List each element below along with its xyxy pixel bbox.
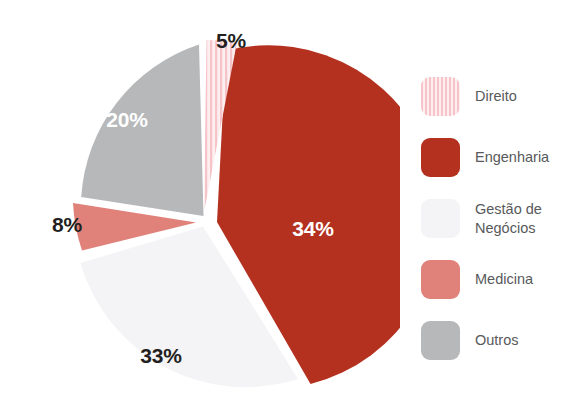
legend-item-outros[interactable]: Outros (421, 310, 586, 371)
pie-chart-figure: 5% 34% 33% 8% 20% Direito Engenharia Ges… (0, 0, 586, 414)
legend-label-engenharia: Engenharia (475, 148, 549, 167)
pie-label-medicina: 8% (52, 213, 82, 236)
chart-legend: Direito Engenharia Gestão de Negócios Me… (421, 66, 586, 371)
legend-swatch-gestao-de-negocios-icon (421, 199, 460, 238)
legend-swatch-medicina-icon (421, 260, 460, 299)
legend-label-outros: Outros (475, 331, 519, 350)
legend-item-medicina[interactable]: Medicina (421, 249, 586, 310)
pie-label-outros: 20% (106, 108, 148, 131)
legend-swatch-outros-icon (421, 321, 460, 360)
legend-label-medicina: Medicina (475, 270, 533, 289)
pie-chart-svg: 5% 34% 33% 8% 20% (0, 0, 400, 414)
pie-chart-area: 5% 34% 33% 8% 20% (0, 0, 400, 414)
legend-item-engenharia[interactable]: Engenharia (421, 127, 586, 188)
legend-item-direito[interactable]: Direito (421, 66, 586, 127)
legend-label-direito: Direito (475, 87, 517, 106)
legend-label-gestao-de-negocios: Gestão de Negócios (475, 200, 542, 237)
pie-label-engenharia: 34% (292, 217, 334, 240)
legend-swatch-engenharia-icon (421, 138, 460, 177)
pie-label-gestao-de-negocios: 33% (140, 344, 182, 367)
pie-label-direito: 5% (216, 29, 246, 52)
legend-item-gestao-de-negocios[interactable]: Gestão de Negócios (421, 188, 586, 249)
legend-swatch-direito-icon (421, 77, 460, 116)
